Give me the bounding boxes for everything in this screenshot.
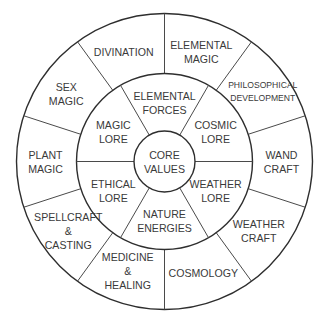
label-line: SEX [56,81,77,93]
label-line: CORE [149,149,180,161]
label-line: PHILOSOPHICAL [228,80,297,90]
label-line: WEATHER [190,178,243,190]
label-line: LORE [99,192,128,204]
label-line: VALUES [144,163,185,175]
label-line: COSMOLOGY [169,267,238,279]
outer-segment-divination: DIVINATION [94,46,154,58]
label-line: CRAFT [264,163,300,175]
outer-segment-cosmology: COSMOLOGY [169,267,238,279]
label-line: MAGIC [49,95,84,107]
label-line: PLANT [28,149,63,161]
label-line: ELEMENTAL [170,39,232,51]
label-line: MEDICINE [102,251,154,263]
label-line: WAND [266,149,298,161]
label-line: & [124,265,131,277]
label-line: LORE [201,133,230,145]
label-line: ENERGIES [137,222,192,234]
label-line: MAGIC [28,163,63,175]
core-circle [134,131,195,192]
label-line: LORE [99,133,128,145]
label-line: ETHICAL [91,178,136,190]
label-line: FORCES [142,104,186,116]
label-line: DIVINATION [94,46,154,58]
label-line: NATURE [143,208,186,220]
label-line: ELEMENTAL [133,90,195,102]
label-line: MAGIC [96,119,131,131]
label-line: CASTING [45,239,92,251]
label-line: SPELLCRAFT [34,211,103,223]
label-line: WEATHER [233,218,286,230]
label-line: MAGIC [184,53,219,65]
label-line: COSMIC [194,119,237,131]
core-values-wheel-diagram: ELEMENTALMAGICPHILOSOPHICALDEVELOPMENTWA… [0,0,326,319]
label-line: CRAFT [241,232,277,244]
label-line: HEALING [104,279,151,291]
label-line: LORE [201,192,230,204]
label-line: DEVELOPMENT [230,93,296,103]
wheel-svg: ELEMENTALMAGICPHILOSOPHICALDEVELOPMENTWA… [0,0,326,319]
label-line: & [65,225,72,237]
